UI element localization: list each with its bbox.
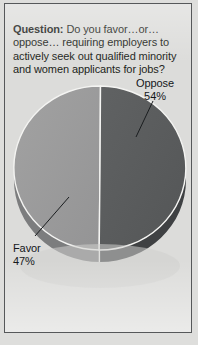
question-text: Question: Do you favor…or…oppose… requir…: [13, 23, 185, 77]
callout-oppose-value: 54%: [136, 90, 174, 103]
figure-frame: Question: Do you favor…or…oppose… requir…: [4, 3, 192, 333]
oppose-leader-line: [136, 101, 153, 137]
poll-figure: Question: Do you favor…or…oppose… requir…: [0, 0, 198, 345]
callout-favor-label: Favor: [13, 242, 41, 254]
callout-favor: Favor 47%: [13, 242, 41, 267]
question-label: Question:: [13, 23, 63, 35]
pie-slice-oppose: [99, 86, 186, 250]
callout-oppose: Oppose 54%: [136, 77, 174, 102]
pie-side-wall-oppose: [100, 168, 186, 262]
pie-slice-favor: [14, 86, 101, 250]
callout-favor-value: 47%: [13, 255, 41, 268]
callout-oppose-label: Oppose: [136, 77, 174, 90]
pie-shadow: [20, 244, 180, 288]
favor-leader-line: [35, 197, 69, 236]
